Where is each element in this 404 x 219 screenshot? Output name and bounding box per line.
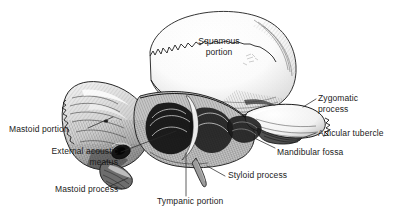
- label-zygomatic-process-line2: process: [318, 104, 348, 114]
- label-mandibular-fossa: Mandibular fossa: [277, 147, 343, 158]
- label-mastoid-process: Mastoid process: [55, 184, 118, 195]
- label-external-acoustic-meatus: External acoustic meatus: [14, 146, 118, 167]
- leader-styloid-process: [207, 166, 225, 176]
- label-zygomatic-process-line1: Zygomatic: [318, 93, 358, 103]
- temporal-bone-figure: Squamous portion Zygomatic process Artic…: [0, 0, 404, 219]
- label-styloid-process: Styloid process: [228, 170, 287, 181]
- label-mastoid-portion: Mastoid portion: [9, 124, 69, 135]
- mandibular-fossa-shape: [228, 116, 262, 142]
- label-zygomatic-process: Zygomatic process: [318, 93, 402, 114]
- label-tympanic-portion: Tympanic portion: [157, 196, 223, 207]
- label-articular-tubercle: Articular tubercle: [318, 128, 384, 139]
- label-external-acoustic-meatus-line2: meatus: [90, 157, 118, 167]
- leader-zygomatic-process: [303, 99, 316, 107]
- label-squamous-portion: Squamous portion: [190, 36, 248, 57]
- label-squamous-portion-line1: Squamous: [198, 36, 239, 46]
- label-squamous-portion-line2: portion: [206, 47, 233, 57]
- label-external-acoustic-meatus-line1: External acoustic: [52, 146, 118, 156]
